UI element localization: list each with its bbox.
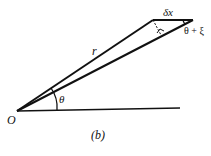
caption: (b): [91, 128, 105, 142]
lower-line: [17, 20, 193, 111]
origin-label: O: [7, 113, 16, 127]
diagram-canvas: O r θ δx θ + ξ (b): [0, 0, 211, 156]
delta-x-label: δx: [163, 6, 173, 18]
baseline: [17, 108, 180, 111]
outer-angle-label: θ + ξ: [184, 25, 204, 37]
radius-line: [17, 20, 153, 111]
radius-label: r: [92, 44, 97, 58]
theta-label: θ: [59, 93, 65, 105]
